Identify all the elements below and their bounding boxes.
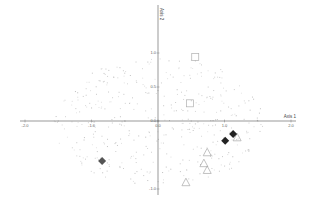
- background-point: [232, 156, 233, 157]
- background-point: [120, 139, 121, 140]
- background-point: [171, 108, 172, 109]
- background-point: [201, 76, 202, 77]
- background-point: [109, 101, 110, 102]
- background-point: [72, 147, 73, 148]
- background-point: [245, 150, 246, 151]
- x-tick-label: 0.0: [155, 123, 161, 128]
- background-point: [101, 102, 102, 103]
- background-point: [76, 112, 77, 113]
- background-point: [123, 94, 124, 95]
- background-point: [213, 78, 214, 79]
- background-point: [194, 128, 195, 129]
- background-point: [81, 124, 82, 125]
- background-point: [208, 177, 209, 178]
- background-point: [77, 97, 78, 98]
- background-point: [112, 123, 113, 124]
- background-point: [65, 116, 66, 117]
- background-point: [182, 110, 183, 111]
- background-point: [188, 129, 189, 130]
- background-point: [156, 93, 157, 94]
- background-point: [129, 133, 130, 134]
- background-point: [56, 116, 57, 117]
- background-point: [146, 146, 147, 147]
- background-point: [162, 172, 163, 173]
- background-point: [216, 144, 217, 145]
- background-point: [95, 104, 96, 105]
- background-point: [136, 162, 137, 163]
- background-point: [245, 103, 246, 104]
- axes: -2.0-1.00.01.02.0 1.00.50.0-1.0 Axis 1 A…: [20, 5, 296, 195]
- background-point: [133, 140, 134, 141]
- background-point: [136, 80, 137, 81]
- background-point: [64, 100, 65, 101]
- background-point: [199, 128, 200, 129]
- background-point: [79, 156, 80, 157]
- background-point: [149, 173, 150, 174]
- background-point: [207, 97, 208, 98]
- background-point: [191, 100, 192, 101]
- background-point: [76, 142, 77, 143]
- ordination-scatter-plot: -2.0-1.00.01.02.0 1.00.50.0-1.0 Axis 1 A…: [0, 0, 312, 210]
- background-point: [242, 153, 243, 154]
- background-point: [101, 136, 102, 137]
- background-point: [221, 101, 222, 102]
- background-point: [222, 156, 223, 157]
- background-point: [89, 103, 90, 104]
- background-point: [112, 97, 113, 98]
- background-point: [96, 94, 97, 95]
- background-point: [125, 103, 126, 104]
- background-point: [212, 155, 213, 156]
- background-point: [122, 121, 123, 122]
- background-point: [75, 108, 76, 109]
- background-point: [96, 86, 97, 87]
- background-point: [164, 120, 165, 121]
- background-point: [156, 141, 157, 142]
- background-point: [231, 108, 232, 109]
- background-point: [232, 139, 233, 140]
- background-point: [229, 169, 230, 170]
- y-tick-label: 0.0: [150, 118, 156, 123]
- triangle-marker: [200, 159, 208, 167]
- background-point: [259, 113, 260, 114]
- background-point: [119, 92, 120, 93]
- background-point: [197, 146, 198, 147]
- background-point: [248, 100, 249, 101]
- background-point: [168, 170, 169, 171]
- background-point: [215, 124, 216, 125]
- triangle-marker: [203, 166, 211, 174]
- background-point: [252, 97, 253, 98]
- background-point: [93, 134, 94, 135]
- background-point: [220, 82, 221, 83]
- background-point: [204, 112, 205, 113]
- background-point: [214, 77, 215, 78]
- background-point: [148, 117, 149, 118]
- background-point: [143, 154, 144, 155]
- x-tick-label: 2.0: [288, 123, 294, 128]
- background-point: [181, 129, 182, 130]
- background-point: [129, 103, 130, 104]
- background-point: [214, 134, 215, 135]
- background-point: [236, 116, 237, 117]
- background-point: [71, 121, 72, 122]
- background-point: [161, 82, 162, 83]
- background-point: [238, 161, 239, 162]
- background-point: [113, 77, 114, 78]
- background-point: [172, 127, 173, 128]
- background-point: [203, 123, 204, 124]
- background-point: [164, 96, 165, 97]
- background-point: [59, 143, 60, 144]
- background-point: [179, 61, 180, 62]
- background-point: [86, 88, 87, 89]
- background-point: [163, 105, 164, 106]
- background-point: [110, 101, 111, 102]
- background-point: [201, 64, 202, 65]
- background-point: [142, 78, 143, 79]
- background-point: [201, 148, 202, 149]
- background-point: [208, 70, 209, 71]
- background-point: [108, 127, 109, 128]
- background-point: [115, 143, 116, 144]
- background-point: [201, 72, 202, 73]
- background-point: [75, 91, 76, 92]
- background-point: [197, 122, 198, 123]
- background-point: [117, 77, 118, 78]
